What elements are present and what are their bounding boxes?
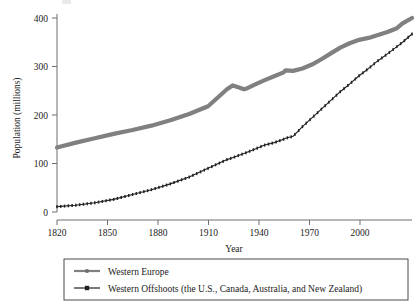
data-point-marker bbox=[60, 205, 62, 208]
data-point-marker bbox=[173, 181, 175, 184]
legend-marker-circle-icon bbox=[85, 269, 89, 273]
data-point-marker bbox=[154, 187, 156, 190]
data-point-marker bbox=[68, 204, 70, 207]
data-point-marker bbox=[275, 140, 277, 143]
data-point-marker bbox=[256, 147, 258, 150]
data-point-marker bbox=[124, 195, 126, 198]
data-point-marker bbox=[260, 145, 262, 148]
data-point-marker bbox=[117, 197, 119, 200]
data-point-marker bbox=[181, 178, 183, 181]
data-point-marker bbox=[253, 148, 255, 151]
x-tick-label-1820: 1820 bbox=[48, 228, 67, 238]
data-point-marker bbox=[287, 136, 289, 139]
data-point-marker bbox=[64, 205, 66, 208]
data-point-marker bbox=[222, 160, 224, 163]
data-point-marker bbox=[328, 101, 330, 104]
population-line-chart: 400 300 200 100 0 Population (millions) … bbox=[0, 0, 420, 304]
legend-entry-western-offshoots[interactable]: Western Offshoots (the U.S., Canada, Aus… bbox=[74, 284, 362, 295]
y-axis-ticks bbox=[52, 18, 57, 212]
series-markers-western-offshoots bbox=[56, 33, 413, 209]
data-point-marker bbox=[404, 39, 406, 42]
legend-label-western-europe: Western Europe bbox=[108, 267, 169, 277]
data-point-marker bbox=[83, 203, 85, 206]
x-axis-title: Year bbox=[225, 244, 243, 254]
data-point-marker bbox=[385, 54, 387, 57]
data-point-marker bbox=[373, 62, 375, 65]
x-tick-label-1970: 1970 bbox=[300, 228, 319, 238]
data-point-marker bbox=[113, 198, 115, 201]
data-point-marker bbox=[158, 186, 160, 189]
y-tick-label-300: 300 bbox=[34, 62, 49, 72]
y-axis-title: Population (millions) bbox=[12, 77, 23, 158]
data-point-marker bbox=[389, 51, 391, 54]
data-point-marker bbox=[324, 104, 326, 107]
data-point-marker bbox=[339, 90, 341, 93]
data-point-marker bbox=[407, 36, 409, 39]
data-point-marker bbox=[177, 180, 179, 183]
x-tick-label-1910: 1910 bbox=[199, 228, 218, 238]
legend-entry-western-europe[interactable]: Western Europe bbox=[74, 267, 169, 277]
data-point-marker bbox=[411, 33, 413, 36]
data-point-marker bbox=[215, 163, 217, 166]
data-point-marker bbox=[79, 203, 81, 206]
data-point-marker bbox=[147, 189, 149, 192]
x-tick-label-1880: 1880 bbox=[149, 228, 168, 238]
data-point-marker bbox=[290, 135, 292, 138]
data-point-marker bbox=[120, 196, 122, 199]
data-point-marker bbox=[192, 174, 194, 177]
data-point-marker bbox=[207, 167, 209, 170]
x-tick-label-1850: 1850 bbox=[98, 228, 117, 238]
data-point-marker bbox=[90, 202, 92, 205]
data-point-marker bbox=[294, 133, 296, 136]
data-point-marker bbox=[143, 190, 145, 193]
data-point-marker bbox=[151, 188, 153, 191]
data-point-marker bbox=[377, 59, 379, 62]
data-point-marker bbox=[366, 68, 368, 71]
data-point-marker bbox=[170, 182, 172, 185]
data-point-marker bbox=[128, 194, 130, 197]
data-point-marker bbox=[86, 202, 88, 205]
data-point-marker bbox=[392, 48, 394, 51]
data-point-marker bbox=[56, 205, 58, 208]
data-point-marker bbox=[283, 138, 285, 141]
data-point-marker bbox=[245, 151, 247, 154]
data-point-marker bbox=[343, 87, 345, 90]
data-point-marker bbox=[306, 122, 308, 125]
data-point-marker bbox=[188, 176, 190, 179]
data-point-marker bbox=[272, 142, 274, 145]
data-point-marker bbox=[381, 56, 383, 59]
legend-label-western-offshoots: Western Offshoots (the U.S., Canada, Aus… bbox=[108, 284, 362, 295]
chart-figure: 400 300 200 100 0 Population (millions) … bbox=[0, 0, 420, 304]
x-axis-ticks bbox=[57, 220, 360, 225]
data-point-marker bbox=[268, 143, 270, 146]
data-point-marker bbox=[332, 97, 334, 100]
data-point-marker bbox=[347, 84, 349, 87]
data-point-marker bbox=[317, 111, 319, 114]
data-point-marker bbox=[98, 201, 100, 204]
data-point-marker bbox=[204, 169, 206, 172]
data-point-marker bbox=[396, 45, 398, 48]
data-point-marker bbox=[234, 155, 236, 158]
data-point-marker bbox=[162, 185, 164, 188]
data-point-marker bbox=[200, 170, 202, 173]
data-point-marker bbox=[362, 71, 364, 74]
series-line-western-europe bbox=[57, 18, 412, 148]
data-point-marker bbox=[400, 42, 402, 45]
data-point-marker bbox=[298, 129, 300, 132]
data-point-marker bbox=[102, 200, 104, 203]
data-point-marker bbox=[71, 204, 73, 207]
data-point-marker bbox=[238, 154, 240, 157]
data-point-marker bbox=[309, 118, 311, 121]
data-point-marker bbox=[358, 74, 360, 77]
data-point-marker bbox=[264, 144, 266, 147]
data-point-marker bbox=[75, 204, 77, 207]
legend-marker-square-icon bbox=[85, 286, 89, 290]
data-point-marker bbox=[302, 125, 304, 128]
data-point-marker bbox=[185, 177, 187, 180]
legend: Western Europe Western Offshoots (the U.… bbox=[64, 259, 408, 300]
data-point-marker bbox=[166, 184, 168, 187]
data-point-marker bbox=[196, 172, 198, 175]
data-point-marker bbox=[241, 153, 243, 156]
series-line-western-offshoots bbox=[57, 34, 412, 207]
data-point-marker bbox=[313, 115, 315, 118]
